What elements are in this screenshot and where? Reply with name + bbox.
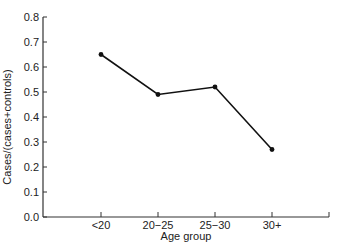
- data-point: [156, 92, 161, 97]
- data-point: [99, 52, 104, 57]
- y-axis-title: Cases/(cases+controls): [1, 69, 13, 184]
- y-tick-label: 0.7: [24, 36, 39, 48]
- y-axis: 0.00.10.20.30.40.50.60.70.8: [24, 11, 47, 223]
- series-line: [101, 55, 272, 150]
- y-tick-label: 0.0: [24, 211, 39, 223]
- y-tick-label: 0.8: [24, 11, 39, 23]
- y-tick-label: 0.1: [24, 186, 39, 198]
- x-tick-label: 30+: [263, 219, 282, 231]
- data-point: [270, 147, 275, 152]
- y-tick-label: 0.6: [24, 61, 39, 73]
- line-chart: 0.00.10.20.30.40.50.60.70.8 <2020−2525−3…: [0, 0, 339, 252]
- x-axis-title: Age group: [161, 230, 212, 242]
- y-tick-label: 0.4: [24, 111, 39, 123]
- data-series: [99, 52, 275, 152]
- data-point: [213, 85, 218, 90]
- y-tick-label: 0.5: [24, 86, 39, 98]
- y-tick-label: 0.2: [24, 161, 39, 173]
- x-tick-label: <20: [92, 219, 111, 231]
- x-axis: <2020−2525−3030+: [43, 212, 329, 231]
- y-tick-label: 0.3: [24, 136, 39, 148]
